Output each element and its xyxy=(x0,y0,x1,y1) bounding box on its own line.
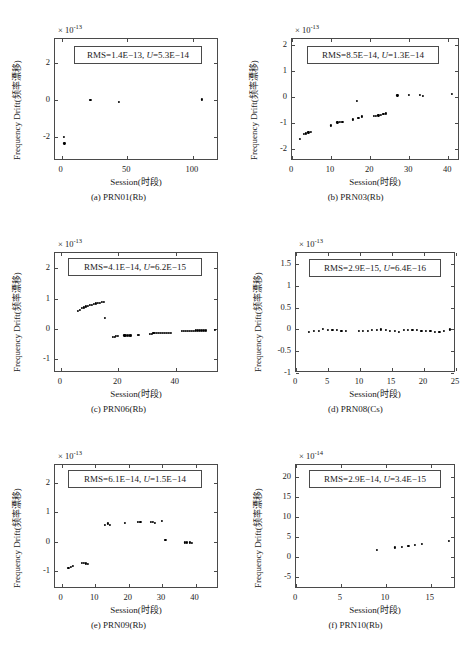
x-tick-a xyxy=(127,156,128,159)
x-tick-label-d: 5 xyxy=(325,376,329,386)
y-tick-right-b xyxy=(455,45,458,46)
data-point xyxy=(438,330,440,332)
y-tick-label-b: 2 xyxy=(257,39,287,49)
y-tick-label-a: -2 xyxy=(20,131,50,141)
x-tick-top-e xyxy=(129,465,130,468)
axis-exponent-label-d: × 10-13 xyxy=(299,237,323,249)
x-tick-label-b: 30 xyxy=(404,164,413,174)
x-tick-top-d xyxy=(392,253,393,256)
data-point xyxy=(117,335,119,337)
data-point xyxy=(420,330,422,332)
x-tick-label-c: 40 xyxy=(171,376,180,386)
axis-exponent-label-e: × 10-13 xyxy=(58,449,82,461)
x-tick-top-c xyxy=(118,253,119,256)
y-tick-right-f xyxy=(451,557,454,558)
y-axis-label-c: Frequency Drift(频率漂移) xyxy=(10,272,23,372)
subfigure-panel-f: × 10-14-505101520051015RMS=2.9E−14, U=3.… xyxy=(237,434,474,653)
y-tick-right-c xyxy=(214,268,217,269)
x-tick-label-e: 0 xyxy=(59,592,63,602)
y-tick-right-a xyxy=(214,100,217,101)
x-axis-label-d: Session(时段) xyxy=(295,387,455,400)
x-tick-label-b: 20 xyxy=(365,164,374,174)
x-tick-top-d xyxy=(328,253,329,256)
data-point xyxy=(118,101,120,103)
statistics-annotation-e: RMS=6.1E−14, U=1.5E−14 xyxy=(68,470,202,488)
x-tick-label-f: 5 xyxy=(338,592,342,602)
x-tick-top-f xyxy=(341,465,342,468)
y-tick-right-e xyxy=(214,542,217,543)
data-point xyxy=(62,136,64,138)
y-tick-d xyxy=(296,373,299,374)
x-tick-c xyxy=(118,368,119,371)
x-tick-top-a xyxy=(193,39,194,42)
data-point xyxy=(164,539,166,541)
x-tick-b xyxy=(409,156,410,159)
y-tick-label-f: 0 xyxy=(261,551,291,561)
data-point xyxy=(138,334,140,336)
y-tick-right-d xyxy=(451,264,454,265)
y-tick-b xyxy=(292,45,295,46)
data-point xyxy=(425,330,427,332)
y-tick-label-d: -0.5 xyxy=(261,345,291,355)
y-tick-right-d xyxy=(451,308,454,309)
x-tick-label-b: 0 xyxy=(289,164,293,174)
data-point xyxy=(170,332,172,334)
figure-row-1: × 10-13-202050100RMS=1.4E−13, U=5.3E−14F… xyxy=(0,0,474,217)
data-point xyxy=(318,330,320,332)
x-tick-top-b xyxy=(448,39,449,42)
y-tick-right-a xyxy=(214,63,217,64)
y-tick-right-c xyxy=(214,359,217,360)
subfigure-caption-e: (e) PRN09(Rb) xyxy=(0,620,237,630)
data-point xyxy=(103,301,105,303)
data-point xyxy=(394,546,396,548)
x-tick-label-d: 20 xyxy=(419,376,428,386)
data-point xyxy=(336,329,338,331)
x-tick-top-e xyxy=(162,465,163,468)
x-tick-label-a: 50 xyxy=(122,164,131,174)
data-point xyxy=(308,330,310,332)
data-point xyxy=(451,93,453,95)
x-tick-label-a: 0 xyxy=(58,164,62,174)
data-point xyxy=(393,330,395,332)
y-axis-label-e: Frequency Drift(频率漂移) xyxy=(10,488,23,588)
y-tick-right-d xyxy=(451,329,454,330)
x-tick-top-a xyxy=(127,39,128,42)
data-point xyxy=(139,521,141,523)
y-tick-f xyxy=(296,577,299,578)
y-tick-label-f: 10 xyxy=(261,511,291,521)
y-tick-d xyxy=(296,308,299,309)
y-tick-label-b: -1 xyxy=(257,117,287,127)
y-tick-e xyxy=(55,542,58,543)
y-tick-right-e xyxy=(214,571,217,572)
y-tick-label-a: 0 xyxy=(20,94,50,104)
data-point xyxy=(407,329,409,331)
x-tick-f xyxy=(296,584,297,587)
data-point xyxy=(402,329,404,331)
y-tick-f xyxy=(296,557,299,558)
y-axis-label-f: Frequency Drift(频率漂移) xyxy=(251,488,264,588)
y-axis-label-b: Frequency Drift(频率漂移) xyxy=(247,60,260,160)
y-tick-label-f: 5 xyxy=(261,531,291,541)
data-point xyxy=(299,138,301,140)
x-tick-top-b xyxy=(409,39,410,42)
data-point xyxy=(422,94,424,96)
x-tick-top-b xyxy=(292,39,293,42)
x-tick-d xyxy=(424,368,425,371)
axis-exponent-label-b: × 10-13 xyxy=(295,23,319,35)
x-tick-d xyxy=(360,368,361,371)
data-point xyxy=(130,334,132,336)
y-tick-label-b: 1 xyxy=(257,65,287,75)
data-point xyxy=(362,330,364,332)
x-tick-label-b: 10 xyxy=(326,164,335,174)
x-tick-top-d xyxy=(456,253,457,256)
x-tick-top-b xyxy=(370,39,371,42)
data-point xyxy=(429,330,431,332)
y-tick-right-e xyxy=(214,512,217,513)
data-point xyxy=(408,94,410,96)
data-point xyxy=(89,99,91,101)
subfigure-caption-f: (f) PRN10(Rb) xyxy=(237,620,474,630)
y-tick-right-c xyxy=(214,299,217,300)
axis-exponent-label-c: × 10-13 xyxy=(58,237,82,249)
data-point xyxy=(357,117,359,119)
data-point xyxy=(124,522,126,524)
